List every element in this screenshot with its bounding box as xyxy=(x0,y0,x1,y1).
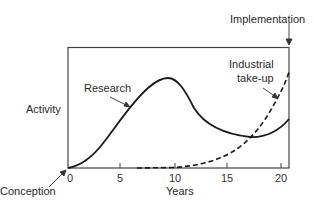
industrial-arrowhead xyxy=(272,93,278,99)
x-tick-label-0: 0 xyxy=(67,172,73,184)
implementation-arrowhead xyxy=(286,39,292,45)
industrial-label-line2: take-up xyxy=(237,72,274,85)
implementation-label: Implementation xyxy=(230,13,305,26)
x-tick-label-10: 10 xyxy=(169,172,181,184)
x-tick-label-20: 20 xyxy=(275,172,287,184)
x-axis-ticks xyxy=(120,163,281,168)
research-label: Research xyxy=(84,82,131,95)
y-axis-label: Activity xyxy=(26,103,61,116)
x-tick-label-5: 5 xyxy=(117,172,123,184)
x-axis-label: Years xyxy=(166,185,194,198)
industrial-label-line1: Industrial xyxy=(229,58,274,71)
conception-label: Conception xyxy=(0,185,56,198)
industrial-takeup-curve xyxy=(137,72,289,168)
x-tick-label-15: 15 xyxy=(221,172,233,184)
research-arrowhead xyxy=(124,102,130,107)
